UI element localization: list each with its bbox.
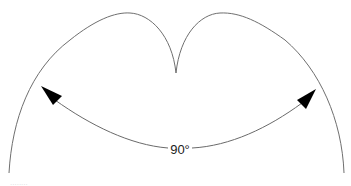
footer-caption: ........ — [10, 178, 28, 186]
arrowhead-right-icon — [297, 89, 316, 109]
beamwidth-arc-right — [192, 103, 302, 148]
right-lobe-curve — [176, 13, 344, 173]
beamwidth-label: 90° — [170, 142, 190, 157]
radiation-pattern-diagram: 90° ........ — [0, 0, 351, 186]
left-lobe-curve — [9, 13, 176, 173]
beamwidth-arc-left — [55, 100, 168, 148]
